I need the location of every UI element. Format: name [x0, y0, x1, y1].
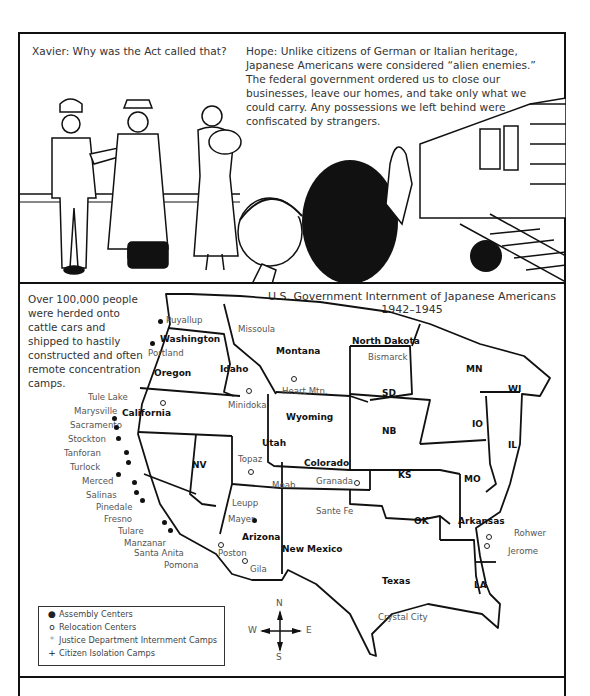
state-north-dakota: North Dakota: [352, 336, 420, 346]
site-manzanar: Manzanar: [124, 538, 166, 548]
train: [420, 98, 566, 218]
legend-assembly: ●Assembly Centers: [39, 607, 224, 620]
site-sante-fe: Sante Fe: [316, 506, 353, 516]
child-head-silhouette: [470, 240, 502, 272]
site-tulare: Tulare: [118, 526, 144, 536]
legend-label: Assembly Centers: [59, 609, 133, 619]
relocation-marker: [484, 543, 490, 549]
site-heart-mtn: Heart Mtn.: [282, 386, 328, 396]
state-california: California: [122, 408, 171, 418]
assembly-marker: [162, 520, 167, 525]
relocation-marker: [246, 388, 252, 394]
site-turlock: Turlock: [70, 462, 100, 472]
state-louisiana: LA: [474, 580, 487, 590]
compass-south: S: [276, 652, 282, 662]
site-crystal-city: Crystal City: [378, 612, 428, 622]
man-in-coat-figure: [108, 100, 168, 268]
relocation-marker: [354, 480, 360, 486]
state-kansas: KS: [398, 470, 411, 480]
next-panel-edge: [18, 676, 566, 696]
site-tule-lake: Tule Lake: [88, 392, 128, 402]
relocation-marker: [242, 558, 248, 564]
assembly-marker: [168, 528, 173, 533]
site-bismarck: Bismarck: [368, 352, 407, 362]
compass-north: N: [276, 598, 283, 608]
site-mayer: Mayer: [228, 514, 255, 524]
assembly-marker: [116, 472, 121, 477]
state-arkansas: Arkansas: [458, 516, 505, 526]
site-gila: Gila: [250, 564, 267, 574]
state-missouri: MO: [464, 474, 481, 484]
site-minidoka: Minidoka: [228, 400, 266, 410]
relocation-marker: [160, 400, 166, 406]
state-south-dakota: SD: [382, 388, 396, 398]
assembly-marker: [126, 460, 131, 465]
site-moab: Moab: [272, 480, 295, 490]
site-leupp: Leupp: [232, 498, 258, 508]
legend-justice: *Justice Department Internment Camps: [39, 633, 224, 646]
assembly-marker: [150, 341, 155, 346]
state-nevada: NV: [192, 460, 207, 470]
site-jerome: Jerome: [508, 546, 538, 556]
state-wisconsin: WI: [508, 384, 521, 394]
relocation-marker: [248, 469, 254, 475]
state-iowa: IO: [472, 419, 483, 429]
relocation-marker: [486, 534, 492, 540]
site-pinedale: Pinedale: [96, 502, 133, 512]
assembly-marker: [112, 416, 117, 421]
state-montana: Montana: [276, 346, 320, 356]
site-tanforan: Tanforan: [64, 448, 101, 458]
evacuation-illustration: [20, 34, 566, 284]
state-washington: Washington: [160, 334, 220, 344]
legend-label: Citizen Isolation Camps: [59, 648, 155, 658]
plus-icon: +: [45, 648, 59, 658]
asterisk-icon: *: [45, 635, 59, 645]
state-utah: Utah: [262, 438, 286, 448]
boy-figure: [238, 198, 302, 284]
site-puyallup: Puyallup: [166, 315, 203, 325]
legend-isolation: +Citizen Isolation Camps: [39, 646, 224, 659]
assembly-marker: [114, 425, 119, 430]
comic-panel-evacuation: Xavier: Why was the Act called that? Hop…: [18, 32, 566, 284]
relocation-marker: [291, 376, 297, 382]
state-texas: Texas: [382, 576, 410, 586]
map-legend: ●Assembly Centers oRelocation Centers *J…: [38, 606, 225, 666]
assembly-marker: [134, 490, 139, 495]
assembly-marker: [124, 450, 129, 455]
assembly-marker: [116, 436, 121, 441]
compass-rose-icon: N S E W: [250, 602, 320, 662]
site-topaz: Topaz: [238, 454, 262, 464]
state-nebraska: NB: [382, 426, 396, 436]
internment-map-panel: Over 100,000 people were herded onto cat…: [18, 282, 566, 678]
compass-west: W: [248, 625, 257, 635]
state-illinois: IL: [508, 440, 517, 450]
state-new-mexico: New Mexico: [282, 544, 343, 554]
site-pomona: Pomona: [164, 560, 198, 570]
site-stockton: Stockton: [68, 434, 106, 444]
state-idaho: Idaho: [220, 364, 248, 374]
site-granada: Granada: [316, 476, 353, 486]
assembly-marker: [158, 319, 163, 324]
site-marysville: Marysville: [74, 406, 117, 416]
assembly-marker: [140, 498, 145, 503]
legend-label: Relocation Centers: [59, 622, 136, 632]
state-wyoming: Wyoming: [286, 412, 333, 422]
state-oregon: Oregon: [154, 368, 191, 378]
filled-dot-icon: ●: [45, 609, 59, 619]
open-circle-icon: o: [45, 622, 59, 632]
site-portland: Portland: [148, 348, 184, 358]
site-salinas: Salinas: [86, 490, 117, 500]
site-santa-anita: Santa Anita: [134, 548, 184, 558]
site-merced: Merced: [82, 476, 114, 486]
compass-east: E: [306, 625, 312, 635]
site-poston: Poston: [218, 548, 247, 558]
site-missoula: Missoula: [238, 324, 275, 334]
state-minnesota: MN: [466, 364, 483, 374]
woman-hair-silhouette: [302, 160, 398, 284]
suitcase: [128, 242, 168, 268]
legend-relocation: oRelocation Centers: [39, 620, 224, 633]
woman-with-baby-figure: [194, 106, 241, 270]
assembly-marker: [132, 480, 137, 485]
state-oklahoma: OK: [414, 516, 429, 526]
legend-label: Justice Department Internment Camps: [59, 635, 217, 645]
